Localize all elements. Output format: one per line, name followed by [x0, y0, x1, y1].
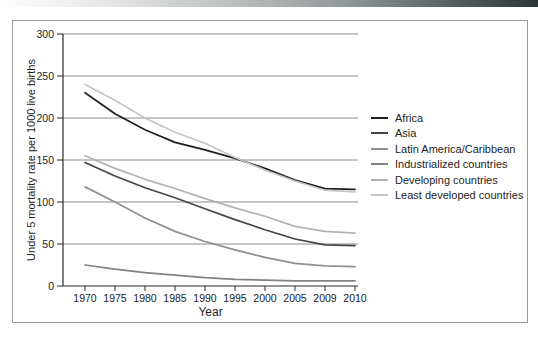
svg-text:1975: 1975: [103, 292, 127, 304]
series-line-industrialized-countries: [85, 265, 355, 281]
legend-item: Africa: [371, 110, 523, 126]
legend-item-label: Industrialized countries: [395, 158, 508, 170]
svg-text:2000: 2000: [253, 292, 277, 304]
svg-text:50: 50: [42, 238, 54, 250]
series-line-latin-america-caribbean: [85, 187, 355, 267]
svg-text:200: 200: [36, 112, 54, 124]
legend-item-label: Africa: [395, 112, 423, 124]
svg-text:1990: 1990: [193, 292, 217, 304]
gridlines: [63, 34, 358, 244]
legend-swatch: [371, 148, 388, 150]
svg-text:100: 100: [36, 196, 54, 208]
y-tick-labels: 050100150200250300: [36, 28, 63, 292]
svg-text:2009: 2009: [313, 292, 337, 304]
y-axis-title: Under 5 mortality rate per 1000 live bir…: [25, 59, 37, 261]
svg-text:250: 250: [36, 70, 54, 82]
x-tick-labels: 1970197519801985199019952000200520092010: [73, 286, 367, 304]
legend-swatch: [371, 163, 388, 165]
legend-swatch: [371, 194, 388, 196]
legend-item-label: Asia: [395, 127, 416, 139]
svg-text:1980: 1980: [133, 292, 157, 304]
svg-text:300: 300: [36, 28, 54, 40]
svg-text:1995: 1995: [223, 292, 247, 304]
legend-swatch: [371, 117, 388, 119]
series-line-least-developed-countries: [85, 84, 355, 192]
svg-text:1970: 1970: [73, 292, 97, 304]
series-lines: [85, 84, 355, 281]
svg-text:2005: 2005: [283, 292, 307, 304]
legend-item-label: Latin America/Caribbean: [395, 143, 515, 155]
page: 0501001502002503001970197519801985199019…: [0, 0, 538, 338]
legend-item: Latin America/Caribbean: [371, 141, 523, 157]
svg-text:1985: 1985: [163, 292, 187, 304]
legend-swatch: [371, 179, 388, 181]
legend-item: Industrialized countries: [371, 157, 523, 173]
legend-item: Least developed countries: [371, 188, 523, 204]
series-line-developing-countries: [85, 156, 355, 233]
legend-item: Asia: [371, 126, 523, 142]
legend-item-label: Least developed countries: [395, 189, 523, 201]
x-axis-title: Year: [63, 305, 358, 319]
legend-item: Developing countries: [371, 172, 523, 188]
legend-item-label: Developing countries: [395, 174, 498, 186]
legend-swatch: [371, 132, 388, 134]
svg-text:150: 150: [36, 154, 54, 166]
legend: AfricaAsiaLatin America/CaribbeanIndustr…: [371, 110, 523, 203]
svg-text:2010: 2010: [343, 292, 367, 304]
svg-text:0: 0: [48, 280, 54, 292]
